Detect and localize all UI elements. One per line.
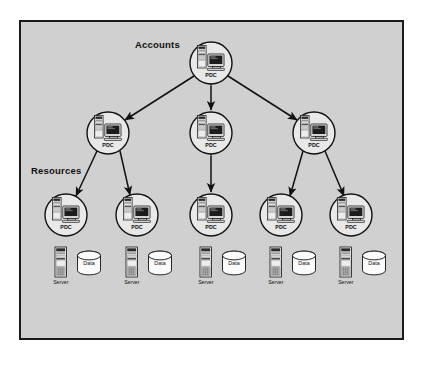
database-caption: Data: [83, 260, 94, 266]
server-tower-icon: [55, 247, 67, 277]
server-tower-icon: [340, 247, 352, 277]
server-node-3[interactable]: Server: [198, 247, 214, 285]
pdc-node-caption: PDC: [131, 224, 142, 230]
database-node-5[interactable]: Data: [363, 251, 386, 275]
database-node-3[interactable]: Data: [223, 251, 246, 275]
database-node-4[interactable]: Data: [293, 251, 316, 275]
pdc-node-res-2[interactable]: PDC: [116, 194, 158, 236]
pdc-node-mid-left[interactable]: PDC: [87, 112, 129, 154]
connector-master-to-mid-right: [228, 76, 297, 120]
server-node-2[interactable]: Server: [124, 247, 140, 285]
server-caption: Server: [268, 279, 284, 285]
server-tower-icon: [200, 247, 212, 277]
pdc-node-master[interactable]: PDC: [190, 42, 232, 84]
database-caption: Data: [298, 260, 309, 266]
database-node-1[interactable]: Data: [78, 251, 101, 275]
pdc-node-caption: PDC: [205, 224, 216, 230]
pdc-node-res-1[interactable]: PDC: [45, 194, 87, 236]
pdc-node-mid-center[interactable]: PDC: [190, 112, 232, 154]
pdc-node-caption: PDC: [345, 224, 356, 230]
database-caption: Data: [368, 260, 379, 266]
pdc-node-res-3[interactable]: PDC: [190, 194, 232, 236]
server-node-4[interactable]: Server: [268, 247, 284, 285]
pdc-node-res-4[interactable]: PDC: [260, 194, 302, 236]
diagram-canvas: PDC PDC PDC PDC PDC PDC: [0, 0, 427, 368]
connector-midleft-to-res2: [120, 151, 130, 195]
pdc-node-res-5[interactable]: PDC: [330, 194, 372, 236]
server-caption: Server: [53, 279, 69, 285]
server-caption: Server: [338, 279, 354, 285]
server-node-5[interactable]: Server: [338, 247, 354, 285]
pdc-node-caption: PDC: [102, 142, 113, 148]
database-caption: Data: [154, 260, 165, 266]
pdc-node-caption: PDC: [308, 142, 319, 148]
pdc-node-mid-right[interactable]: PDC: [293, 112, 335, 154]
server-tower-icon: [270, 247, 282, 277]
domain-trust-diagram: Accounts Resources: [0, 0, 427, 368]
server-caption: Server: [124, 279, 140, 285]
connector-midleft-to-res1: [76, 151, 97, 196]
database-caption: Data: [228, 260, 239, 266]
pdc-node-caption: PDC: [205, 142, 216, 148]
connector-master-to-mid-left: [125, 76, 194, 120]
server-caption: Server: [198, 279, 214, 285]
server-tower-icon: [126, 247, 138, 277]
pdc-node-caption: PDC: [275, 224, 286, 230]
connector-midright-to-res4: [290, 151, 303, 196]
pdc-node-caption: PDC: [205, 72, 216, 78]
database-node-2[interactable]: Data: [149, 251, 172, 275]
pdc-node-caption: PDC: [60, 224, 71, 230]
connector-midright-to-res5: [325, 151, 344, 196]
server-node-1[interactable]: Server: [53, 247, 69, 285]
